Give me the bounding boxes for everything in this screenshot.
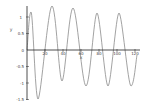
x-axis-ticks: [45, 49, 135, 52]
y-tick-label: -1.5: [16, 97, 24, 102]
x-tick-label: 20: [42, 51, 48, 56]
y-tick-label: -0.5: [16, 64, 24, 69]
x-tick-label: 80: [96, 51, 102, 56]
x-axis-label: x: [80, 55, 83, 60]
x-tick-label: 100: [113, 51, 121, 56]
y-tick-label: 0: [21, 48, 24, 53]
y-tick-label: 0.5: [18, 31, 25, 36]
x-tick-label: 120: [131, 51, 139, 56]
y-tick-label: -1: [20, 81, 24, 86]
y-tick-label: 1: [19, 15, 22, 20]
x-tick-label: 40: [60, 51, 66, 56]
y-axis-label: y: [10, 27, 13, 32]
line-chart: 1 0.5 0 -0.5 -1 -1.5 20 40 60 80 100 120…: [0, 0, 149, 109]
